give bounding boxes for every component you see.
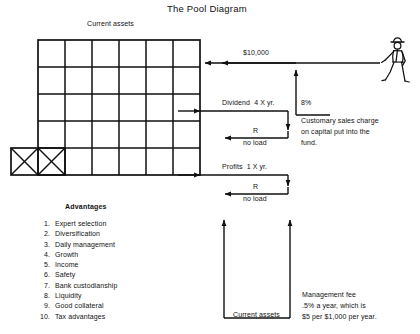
pool-grid bbox=[38, 40, 200, 175]
management-fee-line1: Management fee bbox=[302, 291, 356, 298]
advantage-item: 7.Bank custodianship bbox=[35, 281, 118, 291]
advantage-number: 2. bbox=[35, 229, 55, 239]
advantage-number: 8. bbox=[35, 291, 55, 301]
profits-reinvest-label: R bbox=[253, 183, 258, 190]
advantage-text: Daily management bbox=[55, 240, 115, 250]
profits-load-label: no load bbox=[243, 195, 267, 202]
sales-charge-percent-label: 8% bbox=[301, 99, 311, 106]
dividend-load-label: no load bbox=[243, 139, 267, 146]
advantage-text: Bank custodianship bbox=[55, 281, 118, 291]
inflow-amount-label: $10,000 bbox=[243, 49, 269, 56]
crossed-cells bbox=[11, 148, 65, 175]
sales-charge-note-line3: fund. bbox=[301, 139, 317, 146]
pool-diagram-page: The Pool Diagram Current assets $10,000 … bbox=[0, 0, 420, 334]
dividend-path bbox=[200, 111, 288, 138]
dividend-reinvest-label: R bbox=[253, 127, 258, 134]
profits-path bbox=[200, 175, 288, 194]
advantage-item: 2.Diversification bbox=[35, 229, 118, 239]
advantage-item: 9.Good collateral bbox=[35, 301, 118, 311]
advantage-number: 1. bbox=[35, 219, 55, 229]
page-title: The Pool Diagram bbox=[167, 4, 247, 14]
advantage-text: Diversification bbox=[55, 229, 100, 239]
advantage-text: Expert selection bbox=[55, 219, 106, 229]
advantage-text: Tax advantages bbox=[55, 312, 105, 322]
pool-top-label: Current assets bbox=[87, 20, 134, 27]
advantage-item: 3.Daily management bbox=[35, 240, 118, 250]
advantage-item: 1.Expert selection bbox=[35, 219, 118, 229]
advantage-text: Liquidity bbox=[55, 291, 82, 301]
advantage-number: 10. bbox=[35, 312, 55, 322]
sales-charge-note-line1: Customary sales charge bbox=[301, 117, 379, 124]
bracket-current-assets-label: Current assets bbox=[233, 311, 280, 318]
current-assets-bracket bbox=[224, 220, 290, 318]
profits-label: Profits 1 X yr. bbox=[222, 163, 267, 170]
advantage-item: 5.Income bbox=[35, 260, 118, 270]
advantage-item: 10.Tax advantages bbox=[35, 312, 118, 322]
advantage-text: Income bbox=[55, 260, 79, 270]
sales-charge-note-line2: on capital put into the bbox=[301, 128, 370, 135]
sales-charge-branch bbox=[296, 70, 330, 115]
advantage-number: 7. bbox=[35, 281, 55, 291]
advantage-text: Good collateral bbox=[55, 301, 104, 311]
dividend-label: Dividend 4 X yr. bbox=[222, 99, 275, 106]
advantage-number: 5. bbox=[35, 260, 55, 270]
advantage-number: 3. bbox=[35, 240, 55, 250]
advantage-number: 4. bbox=[35, 250, 55, 260]
advantage-text: Growth bbox=[55, 250, 78, 260]
advantage-text: Safety bbox=[55, 270, 75, 280]
advantage-number: 6. bbox=[35, 270, 55, 280]
advantages-heading: Advantages bbox=[65, 203, 107, 210]
advantages-list: 1.Expert selection2.Diversification3.Dai… bbox=[35, 219, 118, 322]
management-fee-line3: $5 per $1,000 per year. bbox=[302, 313, 377, 320]
advantage-item: 6.Safety bbox=[35, 270, 118, 280]
management-fee-line2: .5% a year, which is bbox=[302, 302, 366, 309]
advantage-item: 8.Liquidity bbox=[35, 291, 118, 301]
advantage-number: 9. bbox=[35, 301, 55, 311]
walking-man-icon bbox=[382, 38, 410, 82]
advantage-item: 4.Growth bbox=[35, 250, 118, 260]
